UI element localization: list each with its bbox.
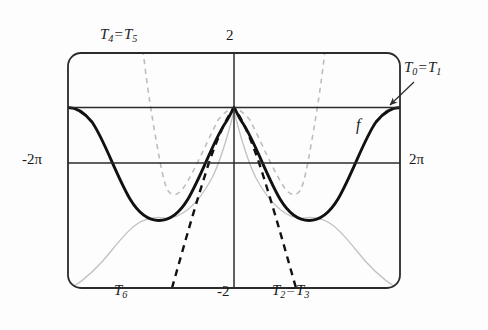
label-x-max: 2π [409, 152, 424, 167]
label-t6: T6 [114, 283, 127, 300]
label-t2-t3-eq: = [285, 282, 295, 298]
label-t2-t3-base2: T [296, 282, 304, 298]
label-x-min: -2π [22, 152, 42, 167]
annotation-arrow-t0-t1 [390, 82, 414, 105]
taylor-polynomial-figure: T4=T5 2 T0=T1 f -2π 2π T6 -2 T2=T3 [0, 0, 488, 330]
label-t0-t1-base2: T [428, 59, 436, 75]
label-t4-t5: T4=T5 [100, 27, 137, 44]
label-t4-t5-sub2: 5 [132, 33, 137, 44]
label-y-max: 2 [226, 28, 234, 43]
label-f: f [356, 117, 360, 133]
label-t0-t1: T0=T1 [404, 60, 441, 77]
label-y-min: -2 [217, 284, 230, 299]
label-t0-t1-eq: = [417, 59, 427, 75]
label-t2-t3-sub2: 3 [304, 289, 309, 300]
label-t4-t5-eq: = [113, 26, 123, 42]
label-t6-sub1: 6 [122, 289, 127, 300]
label-t4-t5-base2: T [124, 26, 132, 42]
label-t2-t3: T2=T3 [272, 283, 309, 300]
label-t0-t1-sub2: 1 [436, 66, 441, 77]
